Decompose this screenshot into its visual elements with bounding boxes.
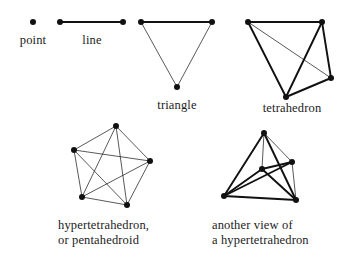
caption-line: point [20, 33, 46, 48]
edge [262, 162, 292, 169]
vertex-dot [57, 19, 63, 25]
figure-vertices-point [30, 19, 36, 25]
vertex-dot [261, 130, 267, 136]
edge [82, 161, 150, 197]
edge [286, 22, 322, 97]
caption-line: line [82, 33, 101, 48]
caption-line: another view of [212, 218, 309, 233]
vertex-dot [30, 19, 36, 25]
vertex-dot [113, 123, 119, 129]
edge [116, 126, 127, 205]
figure-edges-triangle [141, 22, 212, 87]
edge [82, 126, 116, 197]
vertex-dot [138, 19, 144, 25]
figure-vertices-triangle [138, 19, 215, 90]
figure-edges-tetrahedron [248, 22, 331, 97]
vertex-dot [245, 19, 251, 25]
caption-line: hypertetrahedron, [58, 218, 149, 233]
vertex-dot [293, 197, 299, 203]
vertex-dot [289, 159, 295, 165]
figure-vertices-pentahedroid [71, 123, 153, 208]
vertex-dot [174, 84, 180, 90]
vertex-dot [259, 166, 265, 172]
vertex-dot [221, 193, 227, 199]
edge [262, 169, 296, 200]
edge [116, 126, 150, 161]
figure-edges-pentahedroid [74, 126, 150, 205]
caption-line: triangle [157, 98, 196, 113]
edge [127, 161, 150, 205]
figure-sheet: pointlinetriangletetrahedronhypertetrahe… [0, 0, 353, 264]
edge [322, 22, 331, 78]
vertex-dot [120, 19, 126, 25]
vertex-dot [328, 75, 334, 81]
edge [224, 196, 296, 200]
vertex-dot [124, 202, 130, 208]
edge [74, 126, 116, 150]
caption-line: line [82, 33, 101, 48]
edge [262, 133, 264, 169]
vertex-dot [319, 19, 325, 25]
figure-edges-another-view [224, 133, 296, 200]
edge [248, 22, 286, 97]
edge [141, 22, 177, 87]
vertex-dot [79, 194, 85, 200]
caption-point: point [20, 33, 46, 48]
caption-tetrahedron: tetrahedron [263, 101, 322, 116]
edge [177, 22, 212, 87]
edge [224, 169, 262, 196]
caption-line: or pentahedroid [58, 233, 149, 248]
caption-triangle: triangle [157, 98, 196, 113]
vertex-dot [209, 19, 215, 25]
caption-line: tetrahedron [263, 101, 322, 116]
edge [74, 150, 150, 161]
caption-line: a hypertetrahedron [212, 233, 309, 248]
caption-pentahedroid: hypertetrahedron,or pentahedroid [58, 218, 149, 247]
vertex-dot [71, 147, 77, 153]
caption-another-view: another view ofa hypertetrahedron [212, 218, 309, 247]
edge [264, 133, 292, 162]
vertex-dot [147, 158, 153, 164]
vertex-dot [283, 94, 289, 100]
